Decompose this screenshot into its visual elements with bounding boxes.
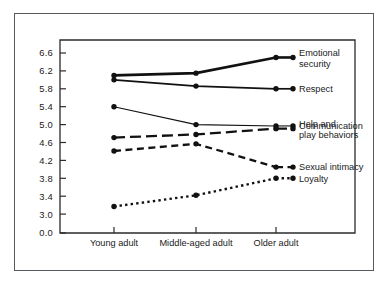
data-point	[193, 193, 198, 198]
series-label-marker	[290, 164, 295, 169]
y-tick-label-3.0: 3.0	[39, 209, 53, 220]
y-tick-label-5.8: 5.8	[39, 83, 53, 94]
series-label-0: security	[299, 59, 331, 69]
series-emotional-security: Emotionalsecurity	[111, 48, 340, 78]
x-tick-label-2: Older adult	[254, 238, 299, 248]
data-point	[111, 77, 116, 82]
series-line	[114, 178, 276, 206]
series-label-marker	[290, 176, 295, 181]
data-point	[193, 122, 198, 127]
series-help-and-play-behaviors: Help andplay behaviors	[111, 119, 358, 140]
data-point	[193, 141, 198, 146]
data-point	[193, 83, 198, 88]
y-tick-label-5.4: 5.4	[39, 101, 53, 112]
y-tick-label-4.2: 4.2	[39, 155, 53, 166]
y-tick-label-6.2: 6.2	[39, 65, 53, 76]
data-point	[273, 176, 278, 181]
x-tick-label-1: Middle-aged adult	[159, 238, 232, 248]
y-tick-label-3.8: 3.8	[39, 173, 53, 184]
series-label-5: Loyalty	[299, 174, 329, 184]
y-tick-label-4.6: 4.6	[39, 137, 53, 148]
line-chart: 6.66.25.85.45.04.64.23.83.43.00.0Young a…	[0, 0, 389, 286]
y-tick-label-3.4: 3.4	[39, 191, 53, 202]
x-tick-label-0: Young adult	[90, 238, 139, 248]
data-point	[273, 86, 278, 91]
series-label-4: Sexual intimacy	[299, 162, 364, 172]
y-tick-label-zero: 0.0	[39, 227, 53, 238]
data-point	[273, 164, 278, 169]
series-label-0: Emotional	[299, 48, 340, 58]
y-tick-label-5.0: 5.0	[39, 119, 53, 130]
series-label-3: play behaviors	[299, 130, 359, 140]
series-label-3: Help and	[299, 119, 336, 129]
y-tick-label-6.6: 6.6	[39, 47, 53, 58]
figure-container: 6.66.25.85.45.04.64.23.83.43.00.0Young a…	[0, 0, 389, 286]
data-point	[111, 135, 116, 140]
data-point	[193, 132, 198, 137]
data-point	[273, 55, 278, 60]
data-point	[273, 126, 278, 131]
series-label-marker	[290, 86, 295, 91]
series-respect: Respect	[111, 77, 333, 94]
data-point	[193, 70, 198, 75]
data-point	[111, 148, 116, 153]
series-loyalty: Loyalty	[111, 174, 328, 210]
series-line	[114, 144, 276, 167]
series-sexual-intimacy: Sexual intimacy	[111, 141, 363, 172]
series-label-marker	[290, 55, 295, 60]
series-label-marker	[290, 126, 295, 131]
data-point	[111, 204, 116, 209]
series-label-1: Respect	[299, 84, 333, 94]
data-point	[111, 104, 116, 109]
